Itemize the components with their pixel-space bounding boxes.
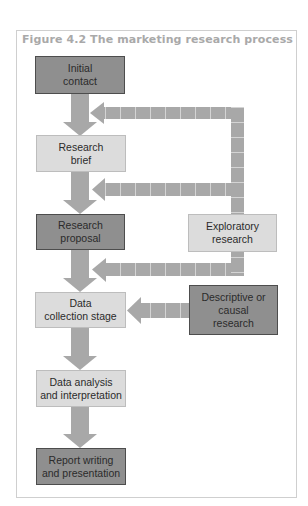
feedback-arrow-to-proposal	[92, 178, 231, 201]
figure-canvas: Figure 4.2 The marketing research proces…	[0, 0, 308, 506]
box-research-brief: Research brief	[36, 135, 126, 172]
box-research-proposal: Research proposal	[36, 214, 125, 250]
arrow-proposal-to-collection	[63, 250, 97, 292]
feedback-arrow-to-collection	[92, 258, 231, 282]
box-exploratory-research: Exploratory research	[188, 214, 277, 252]
box-data-collection: Data collection stage	[35, 292, 126, 328]
feedback-arrow-to-brief	[90, 102, 231, 124]
arrow-initial-to-brief	[63, 94, 97, 136]
arrow-collection-to-analysis	[63, 328, 97, 370]
box-descriptive-causal-research: Descriptive or causal research	[189, 285, 278, 335]
arrow-brief-to-proposal	[63, 172, 97, 214]
arrow-descriptive-to-collection	[127, 297, 189, 324]
box-data-analysis: Data analysis and interpretation	[36, 370, 126, 407]
arrow-analysis-to-report	[63, 407, 97, 448]
box-initial-contact: Initial contact	[35, 56, 125, 94]
box-report-writing: Report writing and presentation	[36, 448, 126, 485]
